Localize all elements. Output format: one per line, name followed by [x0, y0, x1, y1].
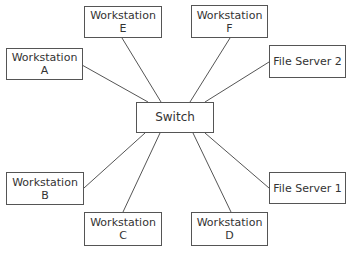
link-switch-fs-2	[205, 62, 269, 102]
node-label-line1: File Server 2	[273, 55, 341, 68]
node-label-line1: Workstation	[90, 216, 156, 229]
node-label-line1: Workstation	[12, 176, 78, 189]
node-label-line1: Workstation	[90, 9, 156, 22]
file-server-2-node: File Server 2	[269, 45, 346, 78]
node-label-line1: Workstation	[12, 51, 78, 64]
node-label-line1: File Server 1	[273, 182, 341, 195]
node-label-line1: Workstation	[197, 9, 263, 22]
node-label-line2: E	[120, 22, 127, 35]
node-label-line1: Workstation	[197, 216, 263, 229]
switch-label: Switch	[155, 111, 195, 124]
link-switch-ws-e	[122, 38, 161, 102]
link-switch-ws-b	[84, 133, 145, 188]
node-label-line2: D	[225, 229, 233, 242]
node-label-line2: A	[41, 64, 49, 77]
node-label-line2: B	[41, 189, 49, 202]
workstation-a-node: Workstation A	[6, 48, 83, 80]
link-switch-ws-d	[193, 133, 231, 212]
workstation-f-node: Workstation F	[191, 5, 268, 38]
file-server-1-node: File Server 1	[269, 172, 346, 204]
switch-node: Switch	[136, 102, 214, 133]
workstation-b-node: Workstation B	[6, 172, 84, 205]
link-switch-ws-c	[123, 133, 160, 212]
link-switch-fs-1	[205, 133, 269, 188]
link-switch-ws-a	[82, 65, 148, 102]
link-switch-ws-f	[190, 38, 230, 102]
workstation-e-node: Workstation E	[84, 6, 162, 38]
workstation-c-node: Workstation C	[84, 212, 162, 246]
node-label-line2: F	[226, 22, 232, 35]
node-label-line2: C	[119, 229, 127, 242]
workstation-d-node: Workstation D	[191, 212, 268, 246]
